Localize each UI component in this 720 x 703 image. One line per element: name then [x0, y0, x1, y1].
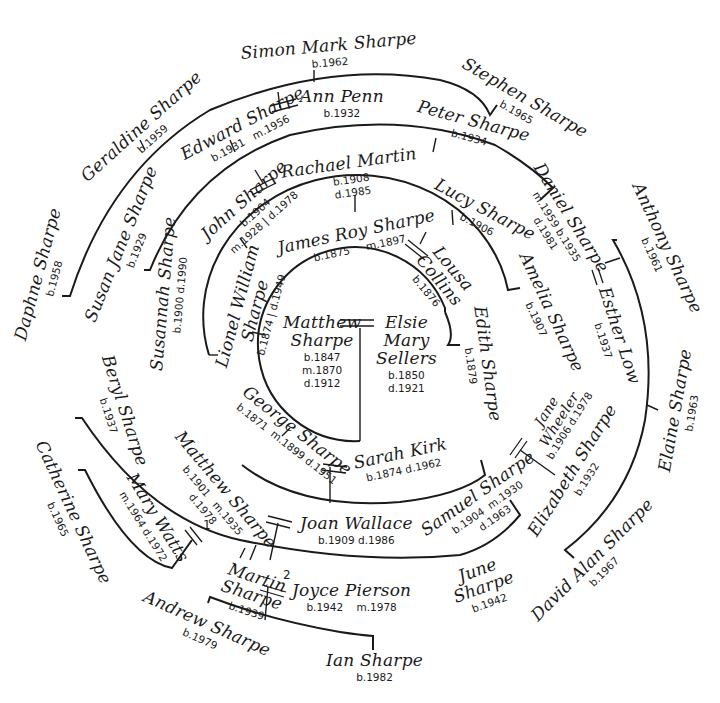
person-elsie-mary-sellers: Elsie Mary Sellers b.1850 d.1921: [376, 314, 437, 394]
person-matthew-sharpe-sr: Matthew Sharpe b.1847 m.1870 d.1912: [283, 314, 361, 389]
person-ian-sharpe: Ian Sharpe b.1982: [326, 652, 423, 683]
person-ann-penn: Ann Penn b.1932: [300, 88, 384, 119]
person-joyce-pierson: Joyce Pierson b.1942 m.1978: [292, 582, 411, 613]
person-joan-wallace: Joan Wallace b.1909 d.1986: [300, 515, 413, 546]
marriage-number-1: 1: [203, 518, 211, 532]
marriage-number-2: 2: [283, 568, 291, 582]
tick-elaine: [647, 405, 658, 410]
tick-peter: [433, 138, 436, 152]
marriage-sign-martin-mary: [185, 527, 202, 545]
